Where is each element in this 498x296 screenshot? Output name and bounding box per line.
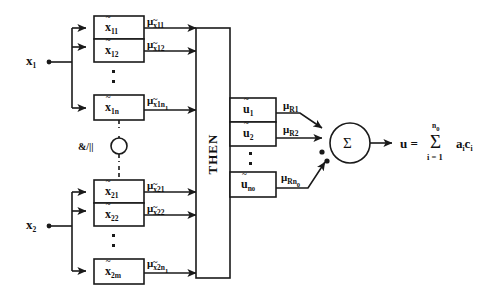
box-label-u1: ~u1 (243, 103, 253, 115)
ellipsis-dot (112, 80, 115, 83)
output-equation-terms: aici (456, 136, 472, 152)
ellipsis-dot (319, 149, 324, 154)
membership-label-x21: μ~x21 (147, 180, 165, 191)
ellipsis-dot (324, 158, 329, 163)
rule-label-r2: μR2 (283, 124, 298, 135)
membership-label-x2n: μ~x2n1 (147, 258, 168, 269)
box-label-x1n: ~x1n (105, 101, 119, 113)
box-label-x21: ~x21 (105, 185, 119, 197)
membership-label-x12: μ~x12 (147, 39, 165, 50)
diagram-vector-layer (0, 0, 498, 296)
box-label-x2m: ~x2m (105, 265, 121, 277)
input-label-x2: x2 (26, 218, 36, 231)
output-equation-upper-limit: n0 (432, 121, 439, 130)
membership-label-x22: μ~x22 (147, 203, 165, 214)
box-x22 (94, 203, 144, 226)
rule-label-r1: μR1 (283, 100, 298, 111)
output-equation-lower-limit: i = 1 (427, 152, 443, 162)
box-x11 (94, 16, 144, 39)
output-equation-lhs: u = (400, 136, 418, 152)
connective-label: &/|| (78, 141, 94, 152)
ellipsis-dot (112, 70, 115, 73)
box-label-x12: ~x12 (105, 44, 119, 56)
connective-node (111, 138, 127, 154)
output-equation-sigma: Σ (430, 131, 441, 153)
diagram-canvas: x1 x2 ~x11 ~x12 ~x1n ~x21 ~x22 ~x2m μ~x1… (0, 0, 498, 296)
membership-label-x1n: μ~x1n1 (147, 95, 168, 106)
ellipsis-dot (249, 162, 252, 165)
box-x12 (94, 39, 144, 62)
summation-symbol: Σ (343, 135, 352, 152)
box-x1n (94, 95, 144, 120)
input-label-x1: x1 (26, 54, 36, 67)
ellipsis-dot (112, 244, 115, 247)
rule-label-rn0: μRn0 (281, 172, 300, 183)
box-label-x22: ~x22 (105, 208, 119, 220)
then-label: THEN (205, 123, 221, 185)
box-label-un0: ~un0 (241, 178, 255, 190)
box-label-u2: ~u2 (243, 127, 253, 139)
ellipsis-dot (249, 152, 252, 155)
ellipsis-dot (112, 234, 115, 237)
box-x21 (94, 180, 144, 203)
membership-label-x11: μ~x11 (147, 16, 164, 27)
box-label-x11: ~x11 (105, 21, 118, 33)
